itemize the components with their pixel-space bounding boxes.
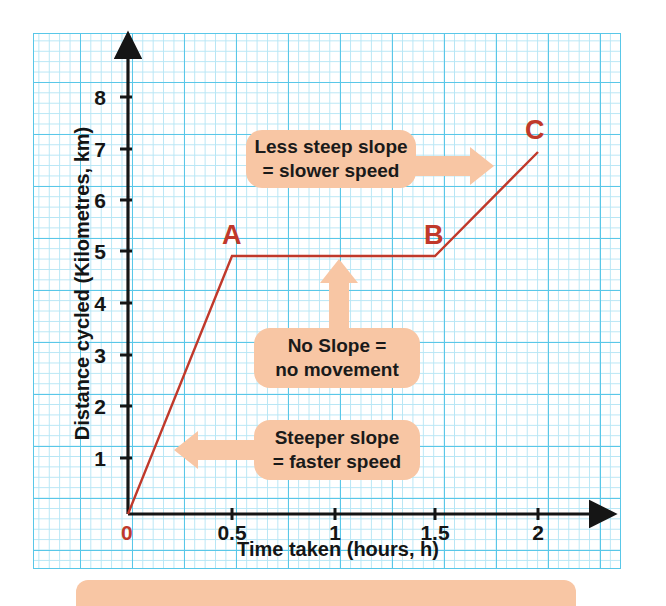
point-label-c: C	[525, 117, 545, 144]
callout-less-steep-slope: Less steep slope = slower speed	[246, 130, 416, 188]
point-label-b: B	[424, 222, 444, 249]
x-axis-title: Time taken (hours, h)	[128, 538, 548, 561]
callout-steeper-line2: = faster speed	[273, 450, 401, 474]
y-axis-ticks	[120, 97, 132, 458]
callout-less-steep-line2: = slower speed	[263, 159, 400, 183]
arrow-left-steeper	[174, 431, 258, 469]
callout-no-slope-line2: no movement	[275, 358, 399, 382]
callout-steeper-slope: Steeper slope = faster speed	[254, 420, 420, 480]
callout-steeper-line1: Steeper slope	[275, 426, 400, 450]
arrow-up-no-slope	[320, 259, 358, 330]
y-axis-title: Distance cycled (Kilometres, km)	[71, 84, 94, 484]
callout-no-slope-line1: No Slope =	[288, 334, 387, 358]
callout-no-slope: No Slope = no movement	[254, 328, 420, 388]
callout-less-steep-line1: Less steep slope	[254, 135, 407, 159]
point-label-a: A	[222, 222, 242, 249]
bottom-callout-strip	[76, 580, 576, 606]
